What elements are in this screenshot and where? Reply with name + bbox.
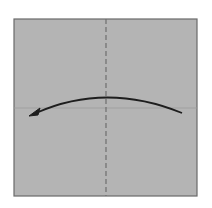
fold-diagram	[0, 0, 212, 208]
